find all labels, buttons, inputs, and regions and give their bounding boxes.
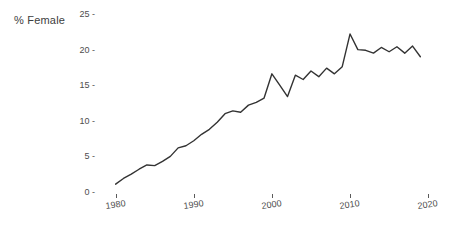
x-tick-mark-1990 — [194, 194, 195, 198]
x-axis-tick-labels: 19801990200020102020 — [0, 0, 451, 231]
x-tick-label-2020: 2020 — [417, 198, 438, 211]
chart-container: % Female 0 -5 -10 -15 -20 -25 - 19801990… — [0, 0, 451, 231]
x-tick-mark-2010 — [350, 194, 351, 198]
x-tick-label-1980: 1980 — [105, 198, 126, 211]
x-tick-mark-1980 — [116, 194, 117, 198]
x-tick-label-1990: 1990 — [183, 198, 204, 211]
x-tick-label-2010: 2010 — [339, 198, 360, 211]
x-tick-mark-2000 — [272, 194, 273, 198]
x-tick-mark-2020 — [428, 194, 429, 198]
x-tick-label-2000: 2000 — [261, 198, 282, 211]
